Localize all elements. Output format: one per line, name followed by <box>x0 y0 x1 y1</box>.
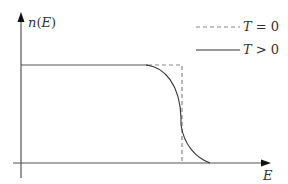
legend-label-t0: T = 0 <box>243 19 279 34</box>
y-axis-label: n(E) <box>28 15 56 30</box>
y-axis-arrow-icon <box>18 12 25 22</box>
legend-label-tpos: T > 0 <box>243 42 279 57</box>
step-curve-t0 <box>148 65 182 163</box>
x-axis-arrow-icon <box>261 160 271 167</box>
x-axis-label: E <box>262 168 273 183</box>
smooth-curve-tpos <box>146 65 210 163</box>
fermi-diagram: n(E) E T = 0 T > 0 <box>0 0 288 184</box>
